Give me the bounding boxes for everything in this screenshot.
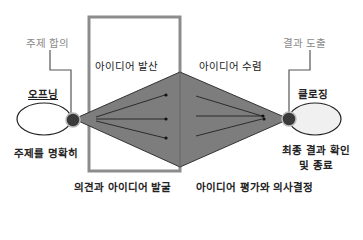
opening-node <box>66 113 80 127</box>
closing-label: 클로징 <box>298 86 328 101</box>
closing-description-line2: 및 종료 <box>299 157 333 172</box>
closing-ellipse <box>289 103 341 135</box>
opening-label: 오프닝 <box>28 86 58 101</box>
result-derivation-label: 결과 도출 <box>283 35 326 50</box>
divergence-phase-label: 아이디어 발산 <box>95 58 158 73</box>
opening-description: 주제를 명확히 <box>14 145 78 160</box>
divergence-description: 의견과 아이디어 발굴 <box>74 179 171 194</box>
topic-agreement-label: 주제 합의 <box>26 35 69 50</box>
closing-node <box>282 112 296 126</box>
convergence-description: 아이디어 평가와 의사결정 <box>196 179 313 194</box>
convergence-phase-label: 아이디어 수렴 <box>199 58 262 73</box>
closing-description-line1: 최종 결과 확인 <box>282 142 349 157</box>
opening-ellipse <box>17 103 71 135</box>
